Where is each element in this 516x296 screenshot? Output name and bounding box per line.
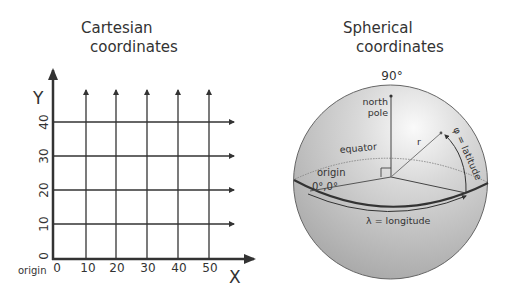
y-axis-label: Y bbox=[32, 88, 44, 108]
y-tick: 30 bbox=[37, 148, 51, 163]
x-tick-labels: 0 10 20 30 40 50 bbox=[53, 261, 217, 275]
top-angle-label: 90° bbox=[381, 69, 402, 83]
north-pole-label-line2: pole bbox=[368, 107, 388, 118]
cartesian-title-line1: Cartesian bbox=[81, 19, 153, 37]
north-pole-dot bbox=[389, 94, 392, 97]
x-tick: 40 bbox=[171, 261, 186, 275]
spherical-title-line1: Spherical bbox=[343, 19, 413, 37]
y-tick: 0 bbox=[37, 252, 51, 260]
horizontal-grid-lines bbox=[54, 122, 234, 224]
x-tick: 20 bbox=[109, 261, 124, 275]
x-tick: 10 bbox=[80, 261, 95, 275]
longitude-label: λ = longitude bbox=[366, 215, 431, 226]
coordinate-systems-diagram: Cartesian coordinates Y X origin 0 10 2 bbox=[0, 0, 516, 296]
cartesian-title-line2: coordinates bbox=[90, 38, 178, 56]
y-tick-labels: 0 10 20 30 40 bbox=[37, 114, 51, 259]
y-tick: 40 bbox=[37, 114, 51, 129]
vertical-grid-lines bbox=[86, 90, 209, 259]
sphere-origin-label: origin bbox=[317, 167, 345, 178]
north-pole-label-line1: north bbox=[363, 96, 389, 107]
origin-coords-label: 0°,0° bbox=[312, 181, 338, 192]
cartesian-panel: Cartesian coordinates Y X origin 0 10 2 bbox=[18, 19, 254, 287]
x-axis-label: X bbox=[229, 267, 241, 287]
radius-label: r bbox=[417, 136, 421, 147]
cartesian-origin-label: origin bbox=[18, 265, 46, 276]
spherical-title-line2: coordinates bbox=[356, 38, 444, 56]
x-tick: 50 bbox=[202, 261, 217, 275]
y-tick: 20 bbox=[37, 182, 51, 197]
x-tick: 0 bbox=[53, 261, 61, 275]
x-tick: 30 bbox=[140, 261, 155, 275]
spherical-panel: Spherical coordinates 90° north pole equ… bbox=[294, 19, 489, 279]
point-dot bbox=[440, 132, 443, 135]
y-tick: 10 bbox=[37, 216, 51, 231]
